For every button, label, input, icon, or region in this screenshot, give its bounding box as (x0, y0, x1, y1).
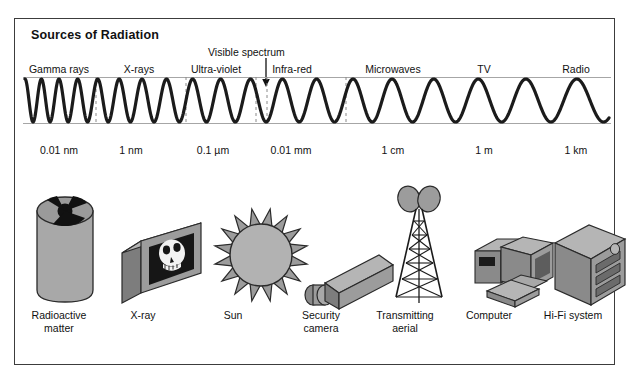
wavelength-label-radio: 1 km (565, 144, 588, 156)
page-title: Sources of Radiation (31, 28, 159, 42)
hifi-stack-icon (549, 215, 631, 311)
source-label-x-ray: X-ray (130, 309, 155, 322)
source-label-security-camera: Security camera (302, 309, 340, 334)
xray-skull-icon (119, 217, 211, 303)
source-label-line1: Hi-Fi system (544, 309, 602, 321)
source-label-line1: Radioactive (32, 309, 87, 321)
source-label-radioactive-matter: Radioactive matter (32, 309, 87, 334)
visible-spectrum-label: Visible spectrum (208, 46, 285, 58)
source-label-hifi-system: Hi-Fi system (544, 309, 602, 322)
wavelength-label-infrared: 0.01 mm (271, 144, 312, 156)
source-label-line2: camera (303, 322, 338, 334)
source-label-sun: Sun (224, 309, 243, 322)
wavelength-label-uv: 0.1 µm (197, 144, 229, 156)
source-label-line1: Computer (466, 309, 512, 321)
radiation-spectrum-figure: Sources of Radiation Visible spectrum Ga… (0, 0, 631, 381)
spectrum-wave-plot (15, 74, 616, 134)
wavelength-label-xray: 1 nm (119, 144, 142, 156)
figure-panel: Sources of Radiation Visible spectrum Ga… (14, 18, 615, 365)
source-label-line1: Security (302, 309, 340, 321)
radiation-drum-icon (33, 194, 109, 304)
source-label-line2: matter (44, 322, 74, 334)
source-label-transmitting-aerial: Transmitting aerial (376, 309, 433, 334)
source-label-line1: Transmitting (376, 309, 433, 321)
sun-icon (211, 205, 311, 305)
source-label-line1: Sun (224, 309, 243, 321)
wavelength-label-microwaves: 1 cm (382, 144, 405, 156)
transmitter-mast-icon (383, 187, 455, 307)
source-label-line1: X-ray (130, 309, 155, 321)
electromagnetic-wave (25, 79, 609, 122)
wavelength-label-gamma: 0.01 nm (40, 144, 78, 156)
source-label-line2: aerial (392, 322, 418, 334)
source-label-computer: Computer (466, 309, 512, 322)
wavelength-label-tv: 1 m (475, 144, 493, 156)
